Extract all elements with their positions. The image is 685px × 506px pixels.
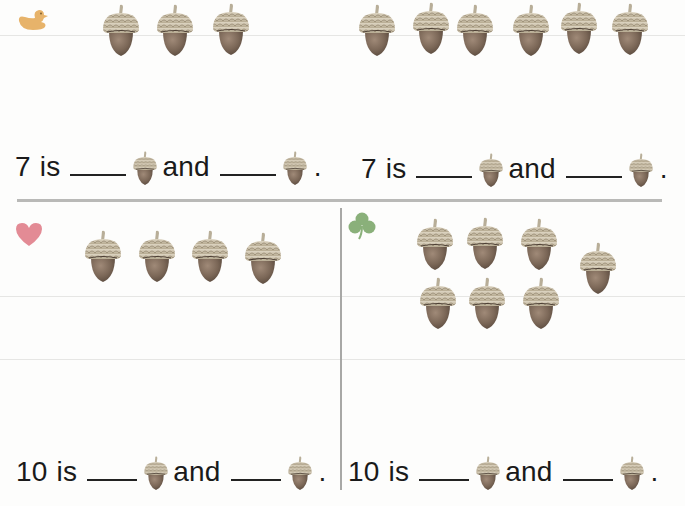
acorn-icon [243, 231, 283, 285]
acorn-icon [610, 2, 650, 56]
acorn-icon [465, 216, 505, 270]
acorn-icon [415, 217, 455, 271]
acorn-icon [559, 1, 599, 55]
acorn-icon [475, 455, 501, 491]
acorn-icon [287, 455, 313, 491]
sentence-number: 7 [361, 154, 377, 184]
acorn-icon [83, 229, 123, 283]
sentence-top-left: 7 is and . [15, 146, 322, 182]
answer-blank[interactable] [87, 479, 137, 481]
sentence-period: . [314, 152, 322, 182]
sentence-word-is: is [389, 457, 410, 487]
sentence-top-right: 7 is and . [361, 148, 668, 184]
sentence-period: . [660, 154, 668, 184]
acorn-icon [132, 150, 158, 186]
answer-blank[interactable] [566, 176, 622, 178]
sentence-word-and: and [508, 154, 555, 184]
answer-blank[interactable] [419, 479, 469, 481]
sentence-number: 7 [15, 152, 31, 182]
acorn-icon [282, 150, 308, 186]
acorn-icon [619, 455, 645, 491]
answer-blank[interactable] [563, 479, 613, 481]
heart-icon [14, 221, 44, 247]
sentence-word-and: and [505, 457, 552, 487]
acorn-icon [101, 3, 141, 57]
acorn-icon [357, 3, 397, 57]
sentence-period: . [651, 457, 659, 487]
acorn-icon [411, 1, 451, 55]
acorn-icon [519, 217, 559, 271]
acorn-icon [628, 152, 654, 188]
acorn-icon [143, 455, 169, 491]
vertical-divider [340, 208, 342, 490]
answer-blank[interactable] [231, 479, 281, 481]
faint-ruled-line [0, 359, 685, 360]
answer-blank[interactable] [220, 174, 276, 176]
acorn-icon [478, 152, 504, 188]
clover-icon [347, 212, 377, 240]
acorn-icon [455, 3, 495, 57]
sentence-bottom-left: 10 is and . [16, 451, 326, 487]
acorn-icon [467, 276, 507, 330]
sentence-word-is: is [57, 457, 78, 487]
sentence-word-is: is [40, 152, 61, 182]
sentence-period: . [319, 457, 327, 487]
acorn-icon [137, 229, 177, 283]
sentence-word-and: and [173, 457, 220, 487]
sentence-word-is: is [386, 154, 407, 184]
sentence-number: 10 [16, 457, 48, 487]
acorn-icon [521, 276, 561, 330]
sentence-bottom-right: 10 is and . [348, 451, 658, 487]
answer-blank[interactable] [70, 174, 126, 176]
duck-icon [17, 7, 49, 31]
sentence-word-and: and [162, 152, 209, 182]
acorn-icon [578, 241, 618, 295]
faint-ruled-line [0, 296, 685, 297]
acorn-icon [155, 3, 195, 57]
horizontal-divider [17, 199, 662, 202]
acorn-icon [511, 3, 551, 57]
acorn-icon [211, 2, 251, 56]
sentence-number: 10 [348, 457, 380, 487]
acorn-icon [418, 276, 458, 330]
acorn-icon [190, 229, 230, 283]
answer-blank[interactable] [416, 176, 472, 178]
